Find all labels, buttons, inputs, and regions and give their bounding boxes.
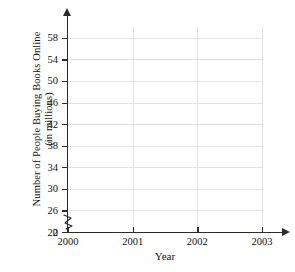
x-axis-tick-label: 2001 bbox=[111, 236, 155, 247]
horizontal-gridline bbox=[68, 81, 262, 82]
x-axis-line bbox=[67, 232, 284, 233]
y-axis-tick bbox=[62, 38, 68, 39]
x-axis-tick bbox=[197, 227, 198, 233]
x-axis-tick-label: 2000 bbox=[46, 236, 90, 247]
plot-area bbox=[68, 27, 262, 232]
y-axis-tick bbox=[62, 124, 68, 125]
y-axis-tick-label: 54 bbox=[34, 54, 58, 65]
vertical-gridline bbox=[133, 27, 134, 232]
y-axis-tick bbox=[62, 146, 68, 147]
y-axis-tick-label: 58 bbox=[34, 32, 58, 43]
chart-container: Number of People Buying Books Online (in… bbox=[0, 0, 295, 272]
x-axis-tick-label: 2002 bbox=[175, 236, 219, 247]
y-axis-tick bbox=[62, 103, 68, 104]
y-axis-arrow-icon bbox=[63, 8, 71, 16]
horizontal-gridline bbox=[68, 146, 262, 147]
vertical-gridline bbox=[197, 27, 198, 232]
horizontal-gridline bbox=[68, 38, 262, 39]
y-axis-tick-label: 34 bbox=[34, 162, 58, 173]
horizontal-gridline bbox=[68, 189, 262, 190]
horizontal-gridline bbox=[68, 59, 262, 60]
vertical-gridline bbox=[262, 27, 263, 232]
y-axis-tick-label: 50 bbox=[34, 75, 58, 86]
horizontal-gridline bbox=[68, 210, 262, 211]
x-axis-tick bbox=[68, 227, 69, 233]
y-axis-tick-label: 38 bbox=[34, 140, 58, 151]
y-axis-tick-label: 42 bbox=[34, 119, 58, 130]
y-axis-tick bbox=[62, 167, 68, 168]
horizontal-gridline bbox=[68, 103, 262, 104]
y-axis-tick bbox=[62, 81, 68, 82]
x-axis-tick bbox=[262, 227, 263, 233]
horizontal-gridline bbox=[68, 124, 262, 125]
y-axis-tick-label: 46 bbox=[34, 97, 58, 108]
x-axis-tick-label: 2003 bbox=[240, 236, 284, 247]
horizontal-gridline bbox=[68, 167, 262, 168]
y-axis-tick-label: 26 bbox=[34, 205, 58, 216]
x-axis-arrow-icon bbox=[282, 228, 290, 236]
x-axis-title: Year bbox=[68, 250, 262, 262]
y-axis-tick-label: 30 bbox=[34, 183, 58, 194]
y-axis-tick bbox=[62, 189, 68, 190]
y-axis-tick bbox=[62, 210, 68, 211]
x-axis-tick bbox=[133, 227, 134, 233]
y-axis-tick bbox=[62, 59, 68, 60]
